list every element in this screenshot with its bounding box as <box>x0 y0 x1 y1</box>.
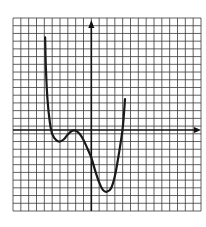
background <box>0 0 206 227</box>
function-graph <box>0 0 206 227</box>
